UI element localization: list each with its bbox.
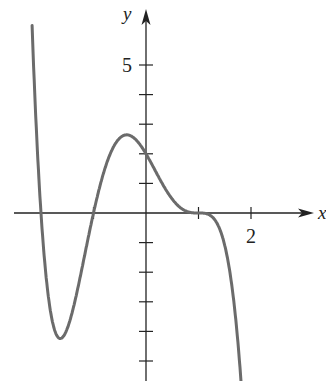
function-curve	[32, 26, 241, 381]
x-tick-label: 2	[246, 225, 256, 247]
x-axis-label: x	[317, 202, 326, 223]
y-axis-label: y	[121, 3, 132, 24]
y-tick-label: 5	[122, 54, 132, 76]
axes	[14, 9, 314, 381]
chart: x y 25	[0, 0, 326, 381]
tick-labels: 25	[122, 54, 256, 247]
